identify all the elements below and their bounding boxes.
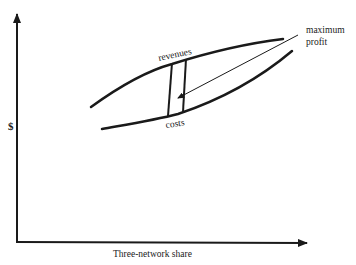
profit-gap-line-left bbox=[168, 63, 172, 116]
costs-curve bbox=[102, 51, 292, 129]
x-axis-label: Three-network share bbox=[113, 249, 192, 259]
costs-label: costs bbox=[165, 117, 186, 130]
x-axis bbox=[16, 242, 307, 243]
y-axis-label: $ bbox=[8, 120, 14, 132]
profit-diagram: $ Three-network share revenues costs max… bbox=[0, 0, 356, 265]
maximum-profit-label-line2: profit bbox=[306, 37, 327, 47]
maximum-profit-label-line1: maximum bbox=[306, 25, 345, 35]
profit-gap-line-right bbox=[183, 59, 186, 112]
